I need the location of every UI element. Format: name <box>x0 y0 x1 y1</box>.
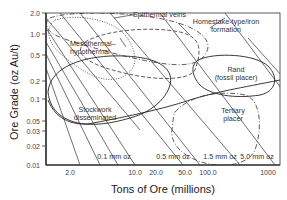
label-tertiary-line2: placer <box>223 114 243 123</box>
y-tick-label: 2.0 <box>30 10 40 17</box>
label-epithermal-veins: Epithermal veins <box>133 10 187 19</box>
y-tick-label: 0.01 <box>26 162 40 169</box>
y-tick-label: 0.1 <box>30 96 40 103</box>
x-tick-label: 2.0 <box>65 169 75 176</box>
contour-lines <box>46 13 287 165</box>
plot-frame <box>46 13 280 165</box>
y-tick-label: 0.2 <box>30 78 40 85</box>
y-axis-tick-labels: 2.0 1.0 0.5 0.2 0.1 0.05 0.03 0.02 0.01 <box>26 10 40 169</box>
gold-deposit-grade-tonnage-chart: 2.0 1.0 0.5 0.2 0.1 0.05 0.03 0.02 0.01 … <box>0 0 287 200</box>
label-contour-0-5: 0.5 mm oz <box>156 152 190 161</box>
x-axis-label: Tons of Ore (millions) <box>111 183 215 195</box>
y-tick-label: 1.0 <box>30 31 40 38</box>
y-tick-label: 0.05 <box>26 118 40 125</box>
y-axis-label: Ore Grade (oz Au/t) <box>8 44 20 140</box>
label-contour-0-1: 0.1 mm oz <box>97 152 131 161</box>
x-tick-label: 10.0 <box>128 169 142 176</box>
label-mesothermal-line2: hypothermal <box>70 47 110 56</box>
y-tick-label: 0.02 <box>26 143 40 150</box>
label-stockwork-line2: disseminated <box>74 113 116 122</box>
x-tick-label: 50.0 <box>178 169 192 176</box>
x-tick-label: 1000 <box>260 169 276 176</box>
label-homestake-line2: formation <box>211 25 241 34</box>
x-axis-tick-labels: 2.0 10.0 20.0 50.0 100.0 1000 <box>65 169 276 176</box>
label-contour-5-0: 5.0 mm oz <box>240 152 274 161</box>
y-tick-label: 0.03 <box>26 128 40 135</box>
label-contour-1-5: 1.5 mm oz <box>203 152 237 161</box>
y-tick-label: 0.5 <box>30 52 40 59</box>
chart-svg: 2.0 1.0 0.5 0.2 0.1 0.05 0.03 0.02 0.01 … <box>0 0 287 200</box>
label-rand-line2: (fossil placer) <box>215 73 258 82</box>
x-tick-label: 20.0 <box>149 169 163 176</box>
x-tick-label: 100.0 <box>199 169 217 176</box>
